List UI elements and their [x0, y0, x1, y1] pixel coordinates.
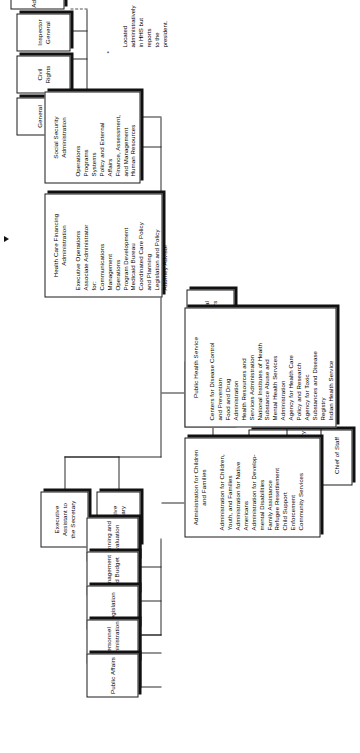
staff-office-public-affairs[interactable]: Public Affairs	[86, 653, 138, 697]
opdiv-phs-items: Centers for Disease Control and Preventi…	[207, 311, 334, 420]
executive-assistant-box[interactable]: Executive Assistant to the Secretary	[40, 491, 88, 547]
opdiv-phs-title: Public Health Service	[191, 308, 199, 426]
staff-office-administration-on-aging-label: Administration on Aging	[29, 0, 45, 7]
footnote-text: Located administratively in HHS but repo…	[120, 7, 168, 53]
rail-staff-left-bus	[140, 539, 141, 687]
chief-of-staff-cell: Chief of Staff	[318, 426, 355, 484]
opdiv-hcfa-title: Health Care Financing Administration	[51, 194, 67, 296]
page-edge-marker	[4, 236, 9, 242]
opdiv-administration-children-families[interactable]: Administration for Children and Families…	[184, 437, 320, 537]
staff-office-civil-rights[interactable]: Civil Rights	[16, 55, 70, 93]
opdiv-ssa-items: Operations Programs Systems Policy and E…	[73, 95, 136, 176]
opdiv-social-security-administration[interactable]: Social Security Administration Operation…	[44, 91, 140, 183]
staff-office-inspector-general-label: Inspector General	[35, 19, 51, 45]
org-chart-canvas: SECRETARY Deputy Secretary Chief of Staf…	[0, 0, 360, 753]
opdiv-public-health-service[interactable]: Public Health Service Centers for Diseas…	[184, 307, 336, 427]
tick-staff-left-4	[140, 652, 161, 653]
staff-office-legislation-label: Legislation	[108, 592, 116, 623]
tick-staff-right-4	[70, 30, 87, 31]
chief-of-staff-label: Chief of Staff	[332, 436, 340, 473]
opdiv-ssa-title: Social Security Administration	[51, 92, 67, 182]
page-root: SECRETARY Deputy Secretary Chief of Staf…	[0, 0, 360, 753]
line-exec-branch	[64, 456, 119, 457]
footnote: * Located administratively in HHS but re…	[104, 7, 176, 53]
footnote-marker: *	[104, 51, 112, 53]
line-exec-secretary	[118, 456, 119, 491]
line-staff-left-1	[160, 539, 161, 635]
line-exec-assistant	[64, 456, 65, 491]
opdiv-health-care-financing-administration[interactable]: Health Care Financing Administration Exe…	[44, 193, 162, 297]
tick-staff-left-5	[140, 686, 161, 687]
tick-staff-left-3	[140, 566, 161, 567]
tick-opdiv-ssa	[140, 146, 161, 147]
tick-opdiv-acf	[161, 502, 184, 503]
executive-assistant-label: Executive Assistant to the Secretary	[52, 500, 77, 538]
tick-staff-right-2	[70, 58, 87, 59]
opdiv-acf-title: Administration for Children and Families	[191, 438, 207, 536]
staff-office-inspector-general[interactable]: Inspector General	[16, 13, 70, 51]
tick-opdiv-phs	[161, 392, 184, 393]
opdiv-acf-items: Administration for Children, Youth, and …	[217, 441, 304, 530]
opdiv-hcfa-items: Executive Operations Associate Administr…	[73, 197, 168, 290]
staff-office-administration-on-aging[interactable]: Administration on Aging	[10, 0, 64, 9]
staff-office-public-affairs-label: Public Affairs	[108, 656, 116, 693]
tick-staff-left-2	[140, 600, 161, 601]
tick-staff-right-5-dashed	[70, 8, 87, 9]
staff-office-civil-rights-label: Civil Rights	[35, 65, 51, 83]
